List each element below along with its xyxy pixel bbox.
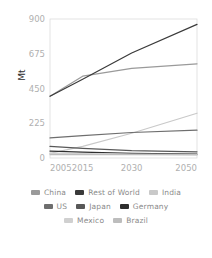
legend-item-label: Rest of World: [88, 188, 140, 197]
legend-item-mexico[interactable]: Mexico: [64, 216, 104, 225]
legend-item-label: India: [162, 188, 181, 197]
legend-swatch-icon: [31, 190, 40, 195]
legend-item-china[interactable]: China: [31, 188, 66, 197]
legend-item-india[interactable]: India: [149, 188, 181, 197]
legend-item-japan[interactable]: Japan: [76, 202, 111, 211]
y-tick-label: 225: [29, 118, 45, 128]
line-chart: 02254506759002005201520302050 Mt ChinaRe…: [0, 0, 212, 258]
series-line-rest-of-world: [50, 24, 197, 96]
legend-item-us[interactable]: US: [44, 202, 68, 211]
x-tick-label: 2030: [121, 163, 143, 173]
legend-swatch-icon: [149, 190, 158, 195]
legend-row: ChinaRest of WorldIndia: [0, 188, 212, 197]
plot-area: 02254506759002005201520302050: [0, 0, 212, 180]
legend-swatch-icon: [44, 204, 53, 209]
x-tick-label: 2015: [72, 163, 94, 173]
legend-item-brazil[interactable]: Brazil: [113, 216, 148, 225]
legend-row: USJapanGermany: [0, 202, 212, 211]
legend-item-label: Mexico: [77, 216, 104, 225]
legend-swatch-icon: [76, 204, 85, 209]
y-tick-label: 675: [29, 49, 45, 59]
series-line-china: [50, 64, 197, 96]
y-tick-label: 0: [40, 153, 45, 163]
legend-item-label: Japan: [89, 202, 111, 211]
y-tick-label: 450: [29, 84, 45, 94]
legend-swatch-icon: [64, 218, 73, 223]
plot-frame: [50, 19, 197, 158]
chart-legend: ChinaRest of WorldIndiaUSJapanGermanyMex…: [0, 188, 212, 230]
legend-item-label: China: [44, 188, 66, 197]
legend-item-label: Germany: [133, 202, 169, 211]
legend-swatch-icon: [120, 204, 129, 209]
y-axis-label: Mt: [17, 55, 27, 95]
legend-row: MexicoBrazil: [0, 216, 212, 225]
plot-svg: 02254506759002005201520302050: [0, 0, 212, 180]
x-tick-label: 2050: [175, 163, 197, 173]
legend-swatch-icon: [113, 218, 122, 223]
legend-swatch-icon: [75, 190, 84, 195]
x-tick-label: 2005: [50, 163, 72, 173]
legend-item-label: US: [57, 202, 68, 211]
series-line-us: [50, 130, 197, 138]
legend-item-germany[interactable]: Germany: [120, 202, 169, 211]
legend-item-rest-of-world[interactable]: Rest of World: [75, 188, 140, 197]
y-tick-label: 900: [29, 14, 45, 24]
legend-item-label: Brazil: [126, 216, 148, 225]
